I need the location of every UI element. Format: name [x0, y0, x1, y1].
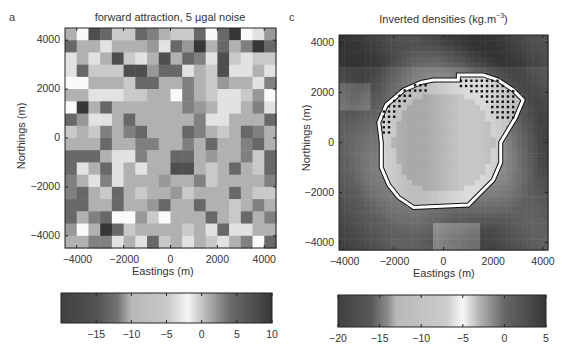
density-cell: [527, 175, 533, 181]
density-cell: [360, 239, 366, 245]
heatmap-cell: [217, 77, 229, 90]
density-cell: [511, 148, 517, 154]
density-cell: [386, 137, 392, 143]
density-cell: [339, 175, 345, 181]
model-cell-marker: [470, 80, 472, 82]
density-cell: [522, 218, 528, 224]
density-cell: [339, 116, 345, 122]
density-cell: [496, 239, 502, 245]
model-cell-marker: [502, 85, 504, 87]
density-cell: [449, 153, 455, 159]
density-cell: [517, 143, 523, 149]
density-cell: [480, 137, 486, 143]
density-cell: [355, 132, 361, 138]
heatmap-cell: [65, 28, 77, 41]
density-cell: [532, 191, 538, 197]
density-cell: [449, 191, 455, 197]
density-cell: [355, 148, 361, 154]
density-cell: [344, 116, 350, 122]
density-cell: [538, 164, 544, 170]
density-cell: [381, 35, 387, 41]
density-cell: [527, 212, 533, 218]
model-cell-marker: [512, 106, 514, 108]
density-cell: [501, 218, 507, 224]
density-cell: [480, 218, 486, 224]
heatmap-cell: [171, 101, 183, 114]
heatmap-cell: [182, 77, 194, 90]
heatmap-cell: [77, 150, 89, 163]
density-cell: [344, 35, 350, 41]
density-cell: [459, 148, 465, 154]
density-cell: [527, 202, 533, 208]
density-cell: [475, 212, 481, 218]
density-cell: [444, 196, 450, 202]
density-cell: [491, 126, 497, 132]
density-cell: [386, 46, 392, 52]
density-cell: [438, 218, 444, 224]
density-cell: [402, 169, 408, 175]
heatmap-cell: [182, 52, 194, 65]
density-cell: [376, 239, 382, 245]
heatmap-cell: [182, 224, 194, 237]
density-cell: [344, 40, 350, 46]
density-cell: [423, 164, 429, 170]
density-cell: [428, 159, 434, 165]
heatmap-cell: [194, 101, 206, 114]
density-cell: [485, 116, 491, 122]
density-cell: [459, 159, 465, 165]
density-cell: [355, 51, 361, 57]
density-cell: [522, 40, 528, 46]
density-cell: [480, 223, 486, 229]
heatmap-cell: [229, 77, 241, 90]
density-cell: [470, 169, 476, 175]
density-cell: [522, 223, 528, 229]
density-cell: [506, 137, 512, 143]
heatmap-cell: [241, 28, 253, 41]
density-cell: [423, 67, 429, 73]
density-cell: [396, 83, 402, 89]
density-cell: [480, 62, 486, 68]
density-cell: [344, 143, 350, 149]
heatmap-cell: [241, 40, 253, 53]
model-cell-marker: [388, 116, 390, 118]
density-cell: [444, 51, 450, 57]
density-cell: [386, 218, 392, 224]
density-cell: [344, 126, 350, 132]
density-cell: [438, 186, 444, 192]
density-cell: [339, 234, 345, 240]
model-cell-marker: [486, 101, 488, 103]
heatmap-cell: [135, 211, 147, 224]
panel-a-xtick-label: 4000: [250, 253, 278, 265]
density-cell: [438, 94, 444, 100]
density-cell: [428, 186, 434, 192]
density-cell: [339, 223, 345, 229]
density-cell: [391, 126, 397, 132]
density-cell: [517, 234, 523, 240]
heatmap-cell: [171, 65, 183, 78]
density-cell: [517, 212, 523, 218]
density-cell: [485, 159, 491, 165]
density-cell: [527, 73, 533, 79]
density-cell: [532, 148, 538, 154]
heatmap-cell: [112, 236, 124, 249]
density-cell: [365, 46, 371, 52]
heatmap-cell: [147, 126, 159, 139]
heatmap-cell: [77, 199, 89, 212]
density-cell: [349, 148, 355, 154]
density-cell: [349, 239, 355, 245]
density-cell: [396, 132, 402, 138]
density-cell: [464, 94, 470, 100]
density-cell: [365, 121, 371, 127]
density-cell: [376, 196, 382, 202]
density-cell: [511, 62, 517, 68]
density-cell: [428, 175, 434, 181]
density-cell: [407, 78, 413, 84]
density-cell: [360, 137, 366, 143]
density-cell: [506, 169, 512, 175]
heatmap-cell: [171, 175, 183, 188]
density-cell: [454, 148, 460, 154]
density-cell: [454, 62, 460, 68]
density-cell: [485, 137, 491, 143]
density-cell: [449, 223, 455, 229]
density-cell: [459, 164, 465, 170]
